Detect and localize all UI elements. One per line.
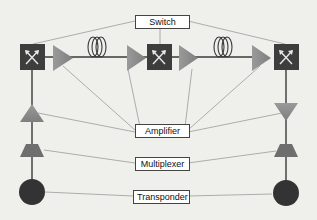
switch-left	[20, 44, 45, 70]
fiber-spool-left	[88, 37, 106, 57]
fiber-spool-right	[214, 37, 232, 57]
transponder-icon	[19, 179, 45, 205]
optical-network-diagram: Switch Amplifier Multiplexer Transponder	[0, 0, 317, 220]
transponder-icon	[273, 180, 299, 206]
leader-transponder-right	[188, 194, 272, 196]
multiplexer-icon	[274, 144, 298, 157]
leader-amp-left	[38, 113, 135, 132]
amplifier-icon	[53, 45, 73, 71]
amplifier-icon	[179, 45, 198, 71]
leader-mux-left	[44, 150, 135, 163]
multiplexer-icon	[20, 144, 44, 157]
amplifier-icon	[20, 104, 44, 122]
amplifier-label: Amplifier	[135, 124, 190, 138]
leader-amp-2	[128, 69, 140, 127]
amplifier-icon	[252, 45, 271, 71]
leader-amp-4	[188, 66, 260, 130]
leader-switch-right	[188, 21, 285, 44]
amplifier-icon	[127, 45, 146, 71]
switch-right	[274, 44, 299, 70]
transponder-label: Transponder	[133, 190, 190, 204]
switch-center	[147, 44, 172, 70]
multiplexer-label: Multiplexer	[135, 157, 190, 171]
leader-mux-right	[188, 151, 276, 163]
leader-switch-left	[33, 21, 135, 44]
diagram-canvas	[0, 0, 317, 220]
switch-label: Switch	[135, 15, 190, 29]
leader-amp-right	[188, 113, 282, 132]
amplifier-icon	[274, 103, 298, 121]
leader-transponder-left	[45, 192, 133, 196]
leader-amp-3	[185, 69, 192, 127]
